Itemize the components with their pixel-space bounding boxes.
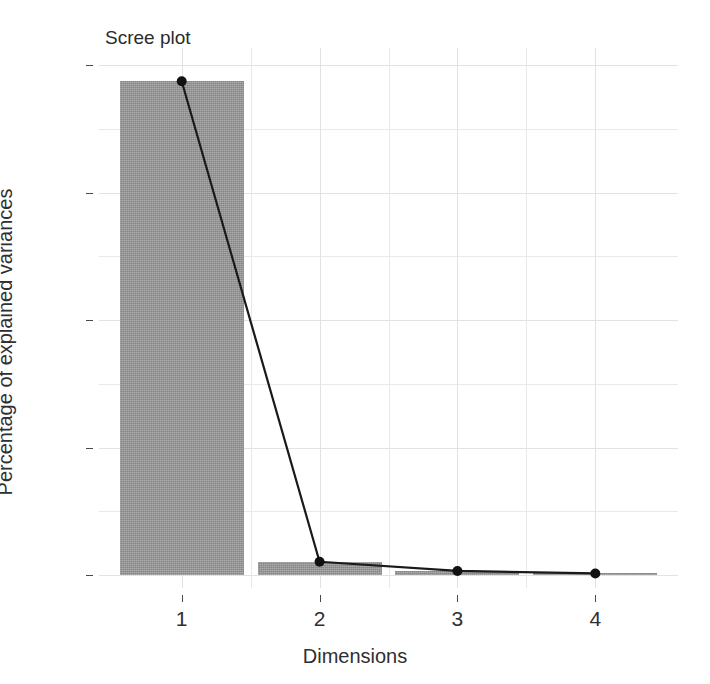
x-tick-label-4: 4 [589, 607, 601, 631]
x-tick-label-3: 3 [452, 607, 464, 631]
y-tick-mark [86, 575, 93, 576]
x-tick-mark [595, 595, 596, 602]
x-tick-mark [320, 595, 321, 602]
x-tick-mark [182, 595, 183, 602]
line-series [99, 48, 678, 588]
y-tick-mark [86, 320, 93, 321]
chart-title: Scree plot [105, 27, 191, 49]
data-point-dimension-2 [315, 557, 325, 567]
data-point-dimension-4 [590, 568, 600, 578]
y-tick-mark [86, 193, 93, 194]
x-tick-label-2: 2 [314, 607, 326, 631]
y-axis-title: Percentage of explained variances [0, 189, 17, 496]
x-tick-mark [457, 595, 458, 602]
x-axis-title: Dimensions [0, 645, 710, 668]
scree-plot-figure: Scree plot Percentage of explained varia… [0, 0, 710, 684]
data-point-dimension-1 [177, 76, 187, 86]
y-tick-mark [86, 448, 93, 449]
variance-line [182, 81, 596, 573]
x-tick-label-1: 1 [176, 607, 188, 631]
plot-panel [99, 48, 678, 588]
data-point-dimension-3 [452, 566, 462, 576]
y-tick-mark [86, 65, 93, 66]
